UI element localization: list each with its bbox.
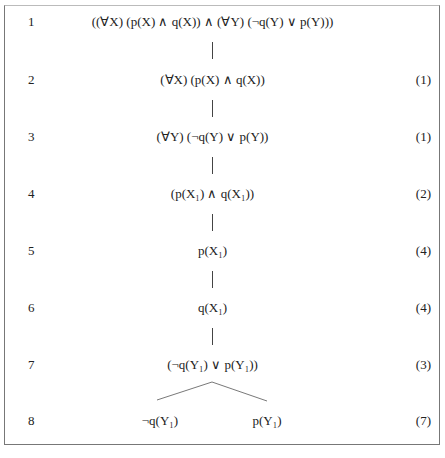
reference: (7) xyxy=(416,413,431,429)
branch-right-formula: p(Y₁) xyxy=(237,413,297,429)
branch-edges xyxy=(0,0,445,458)
branch-left-formula: ¬q(Y₁) xyxy=(130,413,190,429)
row-number: 8 xyxy=(28,413,48,429)
